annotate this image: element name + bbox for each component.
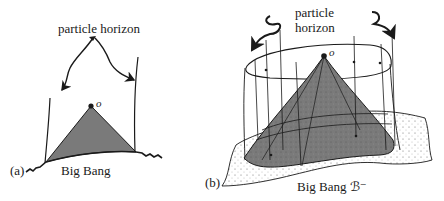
panel-b-horizon-label-1: particle <box>295 6 334 20</box>
horizon-arrow-right <box>95 38 134 80</box>
panel-b-tag: (b) <box>205 176 220 190</box>
panel-a-observer-label: o <box>96 97 102 109</box>
panel-b <box>222 12 432 186</box>
observer-dot-b <box>321 53 327 59</box>
observer-dot <box>88 103 93 108</box>
panel-a-horizon-label: particle horizon <box>58 22 140 36</box>
panel-b-bigbang-label: Big Bang ℬ⁻ <box>297 180 367 194</box>
horizon-arrow-left <box>62 38 93 90</box>
worldline-right <box>134 57 138 152</box>
horizon-arrow-b-right <box>372 12 394 38</box>
panel-b-observer-label: o <box>329 46 335 58</box>
panel-b-horizon-label-2: horizon <box>295 21 335 35</box>
panel-a <box>26 36 162 172</box>
panel-a-tag: (a) <box>10 164 24 178</box>
panel-a-bigbang-label: Big Bang <box>61 164 110 178</box>
worldline-left <box>45 98 50 163</box>
